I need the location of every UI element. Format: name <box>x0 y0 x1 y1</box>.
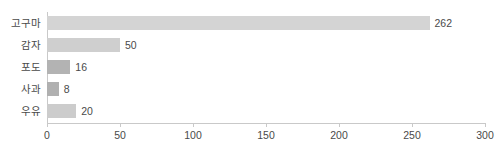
category-label: 고구마 <box>11 12 41 34</box>
bar-value-label: 50 <box>125 34 137 56</box>
category-label: 사과 <box>21 78 41 100</box>
category-label: 우유 <box>21 100 41 122</box>
bar <box>47 60 70 74</box>
x-axis-tick <box>339 123 340 127</box>
bar-value-label: 16 <box>75 56 87 78</box>
x-axis-tick-label: 250 <box>403 129 421 141</box>
plot-area: 고구마 262 감자 50 포도 16 사과 8 우유 20 <box>47 12 485 122</box>
x-axis-tick-label: 200 <box>330 129 348 141</box>
x-axis-tick-label: 0 <box>44 129 50 141</box>
bar-row: 포도 16 <box>47 56 485 78</box>
x-axis-tick-label: 100 <box>184 129 202 141</box>
bar-value-label: 20 <box>81 100 93 122</box>
x-axis-tick <box>485 123 486 127</box>
bar-chart: 고구마 262 감자 50 포도 16 사과 8 우유 20 050100150… <box>0 0 498 165</box>
bar <box>47 82 59 96</box>
bar-row: 우유 20 <box>47 100 485 122</box>
x-axis-tick-label: 50 <box>114 129 126 141</box>
category-label: 포도 <box>21 56 41 78</box>
x-axis-tick <box>120 123 121 127</box>
bar <box>47 16 430 30</box>
bar <box>47 104 76 118</box>
x-axis-tick <box>47 123 48 127</box>
bar <box>47 38 120 52</box>
bar-value-label: 262 <box>435 12 453 34</box>
x-axis-tick-label: 300 <box>476 129 494 141</box>
bar-row: 감자 50 <box>47 34 485 56</box>
category-label: 감자 <box>21 34 41 56</box>
x-axis-tick-label: 150 <box>257 129 275 141</box>
x-axis-tick <box>412 123 413 127</box>
bar-value-label: 8 <box>64 78 70 100</box>
bar-row: 사과 8 <box>47 78 485 100</box>
x-axis-tick <box>193 123 194 127</box>
x-axis-tick <box>266 123 267 127</box>
bar-row: 고구마 262 <box>47 12 485 34</box>
